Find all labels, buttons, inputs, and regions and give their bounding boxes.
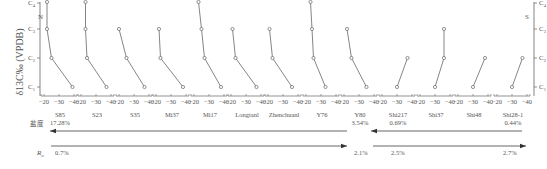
series-line: [397, 58, 408, 87]
south-label: S: [525, 14, 529, 21]
sample-label: S85: [55, 112, 65, 119]
data-point: [117, 27, 120, 30]
north-label: N: [38, 14, 43, 21]
data-point: [143, 85, 146, 88]
data-point: [310, 27, 313, 30]
panel-s85: −20−30−40: [39, 0, 79, 105]
data-point: [159, 56, 162, 59]
data-point: [471, 85, 474, 88]
series-line: [199, 2, 222, 87]
panel-shi28-1: −20−30−40: [492, 56, 532, 105]
data-point: [309, 0, 312, 3]
y-tick-label-right: C1: [539, 83, 546, 92]
y-tick-label-right: C2: [539, 54, 546, 63]
y-tick-label-left: C4: [28, 0, 36, 8]
sample-label: Mi17: [203, 112, 217, 119]
ro-arrow-north: [51, 144, 347, 148]
data-point: [85, 56, 88, 59]
data-point: [395, 85, 398, 88]
sample-label: Y76: [316, 112, 327, 119]
x-tick-label: −30: [54, 98, 64, 105]
ro-arrow-south: [373, 144, 526, 148]
x-tick-label: −30: [507, 98, 517, 105]
x-tick-label: −30: [278, 98, 288, 105]
data-point: [84, 0, 87, 3]
data-point: [71, 85, 74, 88]
panel-y80: −20−30−40: [339, 27, 379, 105]
y-axis-label-text: δ13C‰ (VPDB): [14, 28, 25, 95]
x-tick-label: −20: [189, 98, 199, 105]
sample-label: Zhenchuanl: [269, 112, 300, 119]
sample-label: S35: [130, 112, 140, 119]
data-point: [84, 27, 87, 30]
x-tick-label: −20: [339, 98, 349, 105]
panel-mi37: −20−30−40: [151, 27, 191, 105]
series-line: [159, 29, 183, 87]
data-point: [510, 85, 513, 88]
data-point: [268, 27, 271, 30]
data-point: [312, 56, 315, 59]
y-tick-label-right: C4: [539, 0, 547, 8]
x-tick-label: −20: [39, 98, 49, 105]
x-tick-label: −20: [453, 98, 463, 105]
x-tick-label: −20: [263, 98, 273, 105]
ro-value-mid-1: 2.1%: [354, 150, 368, 157]
data-point: [50, 56, 53, 59]
sample-label: Shi28-1: [503, 112, 524, 119]
data-point: [433, 85, 436, 88]
ro-value-mid-2: 2.5%: [391, 150, 405, 157]
data-point: [324, 85, 327, 88]
x-tick-label: −30: [468, 98, 478, 105]
sample-label: S23: [92, 112, 102, 119]
x-tick-label: −20: [151, 98, 161, 105]
x-tick-label: −20: [301, 98, 311, 105]
data-point: [125, 56, 128, 59]
data-point: [442, 27, 445, 30]
series-line: [86, 2, 107, 87]
y-tick-label-left: C1: [28, 83, 35, 92]
x-tick-label: −20: [226, 98, 236, 105]
series-line: [473, 58, 485, 87]
x-tick-label: −20: [114, 98, 124, 105]
sample-label: Shi48: [466, 112, 481, 119]
sample-label: Longtanl: [235, 112, 258, 119]
salinity-value: 17.28%: [50, 120, 70, 127]
x-tick-label: −40: [522, 98, 532, 105]
salinity-value: 3.54%: [352, 120, 369, 127]
data-point: [521, 56, 524, 59]
x-tick-label: −30: [392, 98, 402, 105]
x-tick-label: −20: [76, 98, 86, 105]
x-tick-label: −30: [166, 98, 176, 105]
data-point: [483, 56, 486, 59]
data-point: [290, 85, 293, 88]
data-point: [203, 56, 206, 59]
x-tick-label: −30: [354, 98, 364, 105]
data-point: [345, 27, 348, 30]
data-point: [365, 85, 368, 88]
salinity-value: 0.69%: [390, 120, 407, 127]
y-tick-label-left: C2: [28, 54, 35, 63]
data-point: [181, 85, 184, 88]
sample-label: Mi37: [165, 112, 179, 119]
panel-shi37: −20−30−40: [415, 27, 455, 105]
data-point: [105, 85, 108, 88]
panel-s23: −20−30−40: [76, 0, 116, 105]
x-tick-label: −20: [492, 98, 502, 105]
sample-label: Y80: [354, 112, 365, 119]
ro-value-end: 2.7%: [503, 150, 517, 157]
axes: C1C1C2C2C3C3C4C4: [28, 0, 547, 96]
sample-label: Shi37: [428, 112, 443, 119]
panel-mi17: −20−30−40: [189, 0, 229, 105]
x-tick-label: −20: [415, 98, 425, 105]
salinity-label: 盐度: [30, 121, 44, 128]
series-line: [311, 2, 326, 87]
x-tick-label: −30: [91, 98, 101, 105]
salinity-value: 0.44%: [505, 120, 522, 127]
salinity-arrow-south: [371, 129, 522, 133]
data-point: [200, 27, 203, 30]
series-line: [47, 2, 73, 87]
x-tick-label: −30: [316, 98, 326, 105]
x-tick-label: −20: [377, 98, 387, 105]
y-tick-label-right: C3: [539, 25, 547, 34]
panels: −20−30−40−20−30−40−20−30−40−20−30−40−20−…: [39, 0, 532, 105]
